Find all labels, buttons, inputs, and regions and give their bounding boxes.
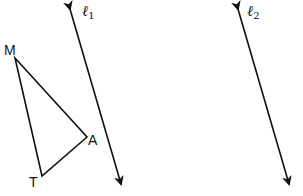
vertex-label-a: A bbox=[88, 132, 98, 148]
line-l1 bbox=[70, 9, 121, 184]
geometry-diagram: M A T ℓ1 ℓ2 bbox=[0, 0, 303, 196]
vertex-label-m: M bbox=[4, 42, 16, 58]
triangle-mat bbox=[15, 58, 87, 176]
line-l2 bbox=[238, 9, 289, 184]
line-label-l1: ℓ1 bbox=[82, 2, 95, 21]
line-label-l2: ℓ2 bbox=[247, 2, 260, 21]
vertex-label-t: T bbox=[29, 174, 38, 190]
